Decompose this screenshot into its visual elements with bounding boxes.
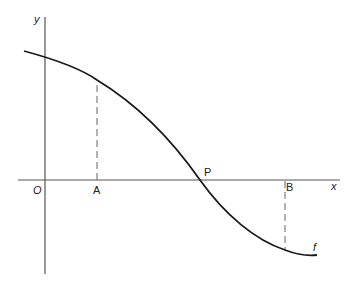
origin-label: O <box>33 185 42 196</box>
point-p-label: P <box>204 167 211 178</box>
curve-f <box>24 51 317 255</box>
x-axis-label: x <box>331 181 337 192</box>
point-a-label: A <box>93 185 100 196</box>
point-b-label: B <box>286 182 293 193</box>
curve-f-label: f <box>313 242 316 253</box>
function-graph <box>0 0 353 287</box>
y-axis-label: y <box>34 14 40 25</box>
